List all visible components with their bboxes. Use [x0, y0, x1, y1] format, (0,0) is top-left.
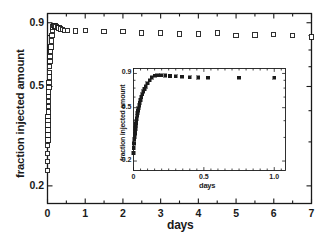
inset-background	[112, 59, 298, 189]
main-x-axis-label: days	[167, 218, 194, 232]
main-y-tick-label-group: 0.9 0.5 0.2	[18, 0, 44, 238]
main-y-tick-label-1: 0.5	[18, 79, 44, 91]
main-x-tick-label-1: 1	[78, 207, 92, 219]
main-y-tick-label-0: 0.9	[18, 16, 44, 28]
main-x-tick-label-2: 2	[116, 207, 130, 219]
inset-y-axis-label: fraction injected amount	[119, 85, 126, 162]
inset-x-tick-label-2: 1.0	[267, 173, 281, 180]
main-x-tick-label-5: 5	[229, 207, 243, 219]
inset-x-tick-label-0: 0	[127, 173, 141, 180]
main-x-tick-label-6: 6	[267, 207, 281, 219]
inset-y-tick-label-2: 0.2	[116, 156, 132, 163]
plot-drawing-surface	[0, 0, 321, 238]
figure-canvas: fraction injected amount days 0.9 0.5 0.…	[0, 0, 321, 238]
inset-y-tick-label-1: 0.5	[116, 103, 132, 110]
inset-x-axis-label: days	[199, 181, 215, 190]
main-y-tick-label-2: 0.2	[18, 179, 44, 191]
inset-x-tick-label-1: 0.5	[197, 173, 211, 180]
main-x-tick-label-3: 3	[154, 207, 168, 219]
main-x-tick-label-0: 0	[41, 207, 55, 219]
main-x-tick-label-4: 4	[191, 207, 205, 219]
inset-y-tick-label-0: 0.9	[116, 68, 132, 75]
main-x-tick-label-7: 7	[305, 207, 319, 219]
